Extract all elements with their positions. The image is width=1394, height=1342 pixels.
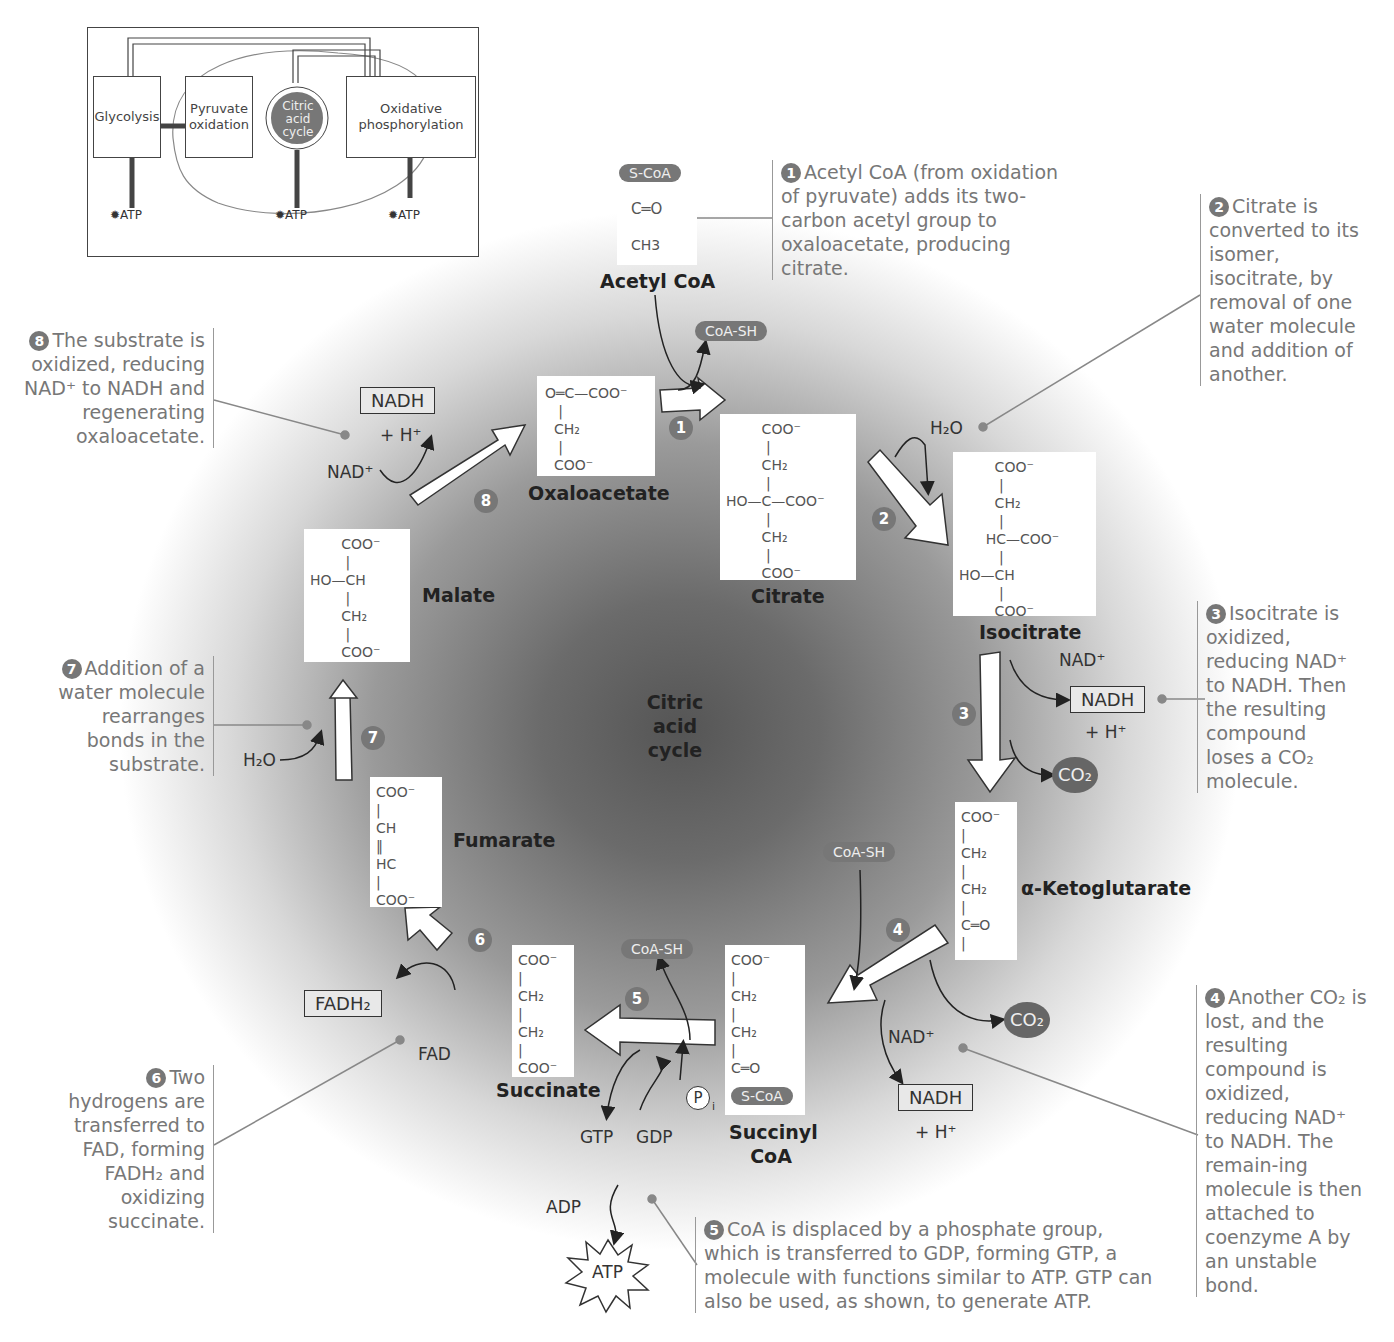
h-plus-step4: + H⁺	[915, 1122, 956, 1142]
gtp-label: GTP	[580, 1127, 613, 1147]
step-marker-5: 5	[625, 987, 649, 1011]
nadh-step8-box: NADH	[360, 387, 435, 414]
atp-label: ATP	[592, 1262, 623, 1282]
acetyl-coa-structure: S-CoA C═O CH3	[617, 160, 697, 265]
nad-step3: NAD⁺	[1059, 650, 1105, 670]
gdp-label: GDP	[636, 1127, 673, 1147]
step-marker-7: 7	[361, 726, 385, 750]
coa-sh-step1: CoA-SH	[695, 321, 767, 341]
coa-sh-step5: CoA-SH	[621, 939, 693, 959]
step-marker-8: 8	[474, 489, 498, 513]
note-step-3: 3Isocitrate is oxidized, reducing NAD⁺ t…	[1197, 601, 1356, 793]
fumarate-structure: COO⁻|CH‖HC|COO⁻	[370, 777, 442, 907]
h2o-step7: H₂O	[243, 750, 276, 770]
note-step-8: 8The substrate is oxidized, reducing NAD…	[20, 328, 214, 448]
succinyl-coa-label: Succinyl CoA	[729, 1120, 813, 1168]
note-step-1: 1Acetyl CoA (from oxidation of pyruvate)…	[772, 160, 1061, 280]
oxaloacetate-structure: O═C—COO⁻ | CH₂ | COO⁻	[537, 376, 655, 476]
succinyl-coa-structure: COO⁻|CH₂|CH₂|C═O S-CoA	[725, 945, 805, 1115]
alpha-ketoglutarate-label: α-Ketoglutarate	[1021, 877, 1191, 899]
citrate-label: Citrate	[751, 585, 825, 607]
coa-sh-step4: CoA-SH	[823, 842, 895, 862]
isocitrate-structure: COO⁻ | CH₂ | HC—COO⁻ |HO—CH | COO⁻	[953, 452, 1096, 616]
note-step-6: 6Two hydrogens are transferred to FAD, f…	[60, 1065, 214, 1233]
step-marker-3: 3	[952, 702, 976, 726]
isocitrate-label: Isocitrate	[979, 621, 1081, 643]
phosphate-pi-icon: P	[686, 1086, 710, 1110]
note-step-5: 5CoA is displaced by a phosphate group, …	[695, 1217, 1164, 1313]
step-marker-1: 1	[669, 416, 693, 440]
co2-step4: CO₂	[1004, 1002, 1050, 1038]
co2-step3: CO₂	[1052, 757, 1098, 793]
note-step-4: 4Another CO₂ is lost, and the resulting …	[1196, 985, 1370, 1297]
oxaloacetate-label: Oxaloacetate	[528, 482, 670, 504]
cycle-center-title: Citric acid cycle	[635, 690, 715, 762]
step-marker-4: 4	[886, 918, 910, 942]
nadh-step4-box: NADH	[898, 1084, 973, 1111]
acetyl-coa-label: Acetyl CoA	[600, 270, 715, 292]
alpha-ketoglutarate-structure: COO⁻|CH₂|CH₂|C═O|	[955, 802, 1017, 960]
h2o-step2: H₂O	[930, 418, 963, 438]
fadh2-box: FADH₂	[304, 990, 382, 1017]
nad-step8: NAD⁺	[327, 462, 373, 482]
citrate-structure: COO⁻ | CH₂ |HO—C—COO⁻ | CH₂ | COO⁻	[720, 414, 856, 580]
h-plus-step8: + H⁺	[380, 425, 421, 445]
nad-step4: NAD⁺	[888, 1027, 934, 1047]
nadh-step3-box: NADH	[1070, 686, 1145, 713]
phosphate-subscript: i	[712, 1100, 715, 1113]
fumarate-label: Fumarate	[453, 829, 555, 851]
succinate-label: Succinate	[496, 1079, 601, 1101]
succinate-structure: COO⁻|CH₂|CH₂|COO⁻	[512, 945, 574, 1077]
h-plus-step3: + H⁺	[1085, 722, 1126, 742]
fad-label: FAD	[418, 1044, 451, 1064]
malate-label: Malate	[422, 584, 495, 606]
note-step-7: 7Addition of a water molecule rearranges…	[55, 656, 214, 776]
step-marker-2: 2	[872, 507, 896, 531]
step-marker-6: 6	[468, 928, 492, 952]
adp-label: ADP	[546, 1197, 581, 1217]
note-step-2: 2Citrate is converted to its isomer, iso…	[1200, 194, 1359, 386]
malate-structure: COO⁻ |HO—CH | CH₂ | COO⁻	[304, 529, 410, 662]
